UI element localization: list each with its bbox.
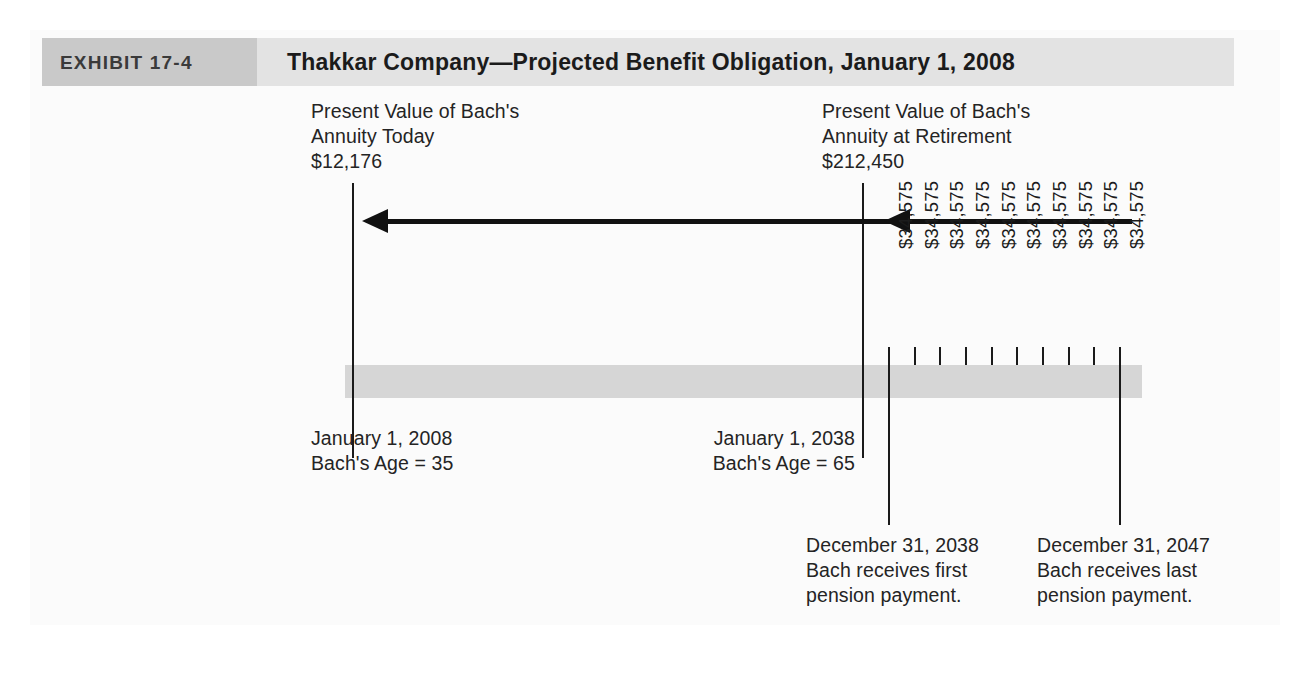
payment-tick xyxy=(1042,347,1044,365)
exhibit-title: Thakkar Company—Projected Benefit Obliga… xyxy=(287,49,1015,76)
pension-payment-amount: $34,575 xyxy=(921,181,943,249)
timeline-shaded-band xyxy=(345,365,1142,398)
pension-payment-amount: $34,575 xyxy=(1075,181,1097,249)
leader-line-last-payment xyxy=(1119,347,1121,525)
callout-date-2008: January 1, 2008 Bach's Age = 35 xyxy=(311,426,453,476)
exhibit-figure: EXHIBIT 17-4 Thakkar Company—Projected B… xyxy=(0,0,1310,674)
pension-payment-amount: $34,575 xyxy=(895,181,917,249)
callout-first-payment: December 31, 2038 Bach receives first pe… xyxy=(806,533,979,608)
pension-payment-amount: $34,575 xyxy=(972,181,994,249)
discount-arrow-shaft xyxy=(388,219,1132,224)
leader-line-first-payment xyxy=(888,347,890,525)
pension-payment-amount: $34,575 xyxy=(1126,181,1148,249)
payment-tick xyxy=(1068,347,1070,365)
discount-arrow-head-today xyxy=(362,209,388,233)
payment-tick xyxy=(1093,347,1095,365)
callout-date-2038: January 1, 2038 Bach's Age = 65 xyxy=(659,426,855,476)
payment-tick xyxy=(1016,347,1018,365)
payment-tick xyxy=(991,347,993,365)
exhibit-number-label: EXHIBIT 17-4 xyxy=(60,52,193,74)
callout-last-payment: December 31, 2047 Bach receives last pen… xyxy=(1037,533,1210,608)
pension-payment-amount: $34,575 xyxy=(946,181,968,249)
callout-pv-today: Present Value of Bach's Annuity Today $1… xyxy=(311,99,519,174)
pension-payment-amount: $34,575 xyxy=(1049,181,1071,249)
pension-payment-amount: $34,575 xyxy=(1023,181,1045,249)
payment-tick xyxy=(965,347,967,365)
timeline-marker-2008 xyxy=(352,183,354,458)
payment-tick xyxy=(939,347,941,365)
pension-payment-amount: $34,575 xyxy=(1100,181,1122,249)
payment-tick xyxy=(914,347,916,365)
timeline-marker-2038 xyxy=(862,183,864,458)
pension-payment-amount: $34,575 xyxy=(998,181,1020,249)
callout-pv-retirement: Present Value of Bach's Annuity at Retir… xyxy=(822,99,1030,174)
